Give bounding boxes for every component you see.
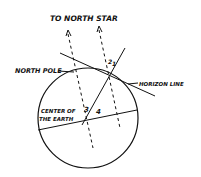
north-star-label: TO NORTH STAR — [50, 14, 118, 23]
center-label-2: THE EARTH — [39, 116, 74, 122]
north-star-ray-pole — [68, 34, 93, 148]
angle-4-label: 4 — [96, 108, 101, 116]
angle-2-label: 2 — [108, 58, 112, 65]
north-pole-label: NORTH POLE — [15, 67, 62, 75]
center-label-1: CENTER OF — [41, 108, 76, 114]
horizon-pointer — [128, 83, 138, 84]
diagram-canvas: TO NORTH STAR NORTH POLE HORIZON LINE CE… — [0, 0, 201, 177]
earth-latitude-diagram: TO NORTH STAR NORTH POLE HORIZON LINE CE… — [0, 0, 201, 177]
angle-3-label: 3 — [84, 106, 89, 114]
angle-1-label: 1 — [112, 60, 116, 67]
horizon-label: HORIZON LINE — [139, 81, 184, 87]
